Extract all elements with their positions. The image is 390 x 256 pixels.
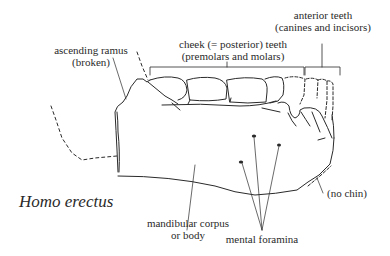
mandibular-corpus-outline <box>118 115 334 195</box>
label-no-chin: (no chin) <box>322 187 372 199</box>
label-ascending-ramus-line2: (broken) <box>46 56 136 68</box>
label-ascending-ramus: ascending ramus (broken) <box>46 44 136 68</box>
leader-foramen-2 <box>262 146 279 230</box>
label-mandibular-corpus-line1: mandibular corpus <box>136 217 240 229</box>
mental-foramina-dots <box>239 134 281 163</box>
label-cheek-teeth-line1: cheek (= posterior) teeth <box>168 38 298 50</box>
cheek-teeth <box>148 77 284 110</box>
leader-lines <box>113 58 323 230</box>
label-anterior-teeth: anterior teeth (canines and incisors) <box>270 9 376 33</box>
label-cheek-teeth: cheek (= posterior) teeth (premolars and… <box>168 38 298 62</box>
label-ascending-ramus-line1: ascending ramus <box>46 44 136 56</box>
label-anterior-teeth-line2: (canines and incisors) <box>270 21 376 33</box>
ascending-ramus-outline <box>51 52 150 172</box>
anterior-teeth <box>285 77 333 120</box>
label-cheek-teeth-line2: (premolars and molars) <box>168 50 298 62</box>
anterior-alveolar-region <box>262 102 332 140</box>
label-mental-foramina: mental foramina <box>222 233 302 245</box>
species-name: Homo erectus <box>19 192 113 212</box>
label-anterior-teeth-line1: anterior teeth <box>270 9 376 21</box>
